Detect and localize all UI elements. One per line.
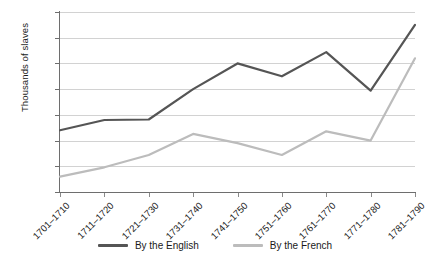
x-tick-mark	[371, 193, 372, 197]
plot-area	[60, 12, 415, 192]
legend-item[interactable]: By the English	[98, 240, 199, 251]
legend-swatch-icon	[233, 244, 263, 247]
x-tick-mark	[415, 193, 416, 197]
gridline	[60, 141, 415, 142]
gridline	[60, 12, 415, 13]
gridline	[60, 89, 415, 90]
x-tick-mark	[149, 193, 150, 197]
gridline	[60, 166, 415, 167]
legend-label: By the English	[135, 240, 199, 251]
gridline	[60, 63, 415, 64]
x-tick-mark	[104, 193, 105, 197]
gridline	[60, 115, 415, 116]
chart-legend: By the EnglishBy the French	[0, 240, 430, 251]
legend-label: By the French	[270, 240, 332, 251]
y-axis-title: Thousands of slaves	[19, 0, 30, 148]
gridline	[60, 38, 415, 39]
x-tick-mark	[60, 193, 61, 197]
x-tick-mark	[282, 193, 283, 197]
legend-item[interactable]: By the French	[233, 240, 332, 251]
x-tick-mark	[193, 193, 194, 197]
line-chart: Thousands of slaves 05010015020025030035…	[0, 0, 430, 260]
legend-swatch-icon	[98, 244, 128, 247]
x-tick-mark	[238, 193, 239, 197]
x-tick-mark	[326, 193, 327, 197]
